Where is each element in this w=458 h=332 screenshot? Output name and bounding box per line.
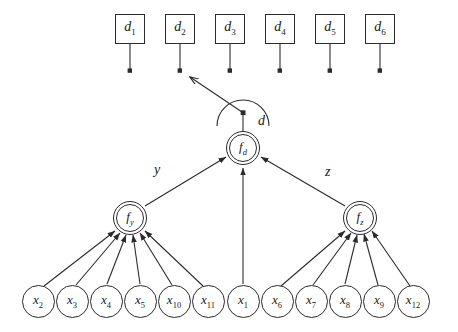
variable-box-d4[interactable]: d4 [265,14,295,44]
variable-node-x2-label: x2 [33,293,43,309]
function-node-f-d[interactable]: fd [226,131,260,165]
variable-node-x7[interactable]: x7 [295,285,328,318]
edge-fz-fd [261,157,345,206]
variable-node-x12-label: x12 [406,293,420,309]
outgoing-message-arrow [190,77,242,112]
edge-label-d: d [258,114,265,128]
diagram-canvas: d1 d2 d3 d4 d5 d6 y d z fy fd fz x2 x3 [0,0,458,332]
function-node-f-z-ring: fz [346,204,374,232]
variable-node-x8[interactable]: x8 [329,285,362,318]
variable-node-x8-label: x8 [340,293,350,309]
variable-node-x6-label: x6 [272,293,282,309]
dbox-stems [130,44,380,70]
variable-node-x1[interactable]: x1 [227,285,260,318]
dbox-terminal-dots [128,68,382,72]
variable-node-x3[interactable]: x3 [56,285,89,318]
variable-box-d2[interactable]: d2 [165,14,195,44]
diagram-wires [0,0,458,332]
variable-box-d3-label: d3 [224,20,236,37]
edge-label-y: y [154,163,160,177]
variable-node-x11-label: x11 [201,293,215,309]
variable-node-x9-label: x9 [374,293,384,309]
function-node-f-y-label: fy [126,210,133,226]
variable-node-x10-label: x10 [167,293,181,309]
variable-box-d6-label: d6 [374,20,386,37]
variable-box-d3[interactable]: d3 [215,14,245,44]
function-node-f-y-ring: fy [116,204,144,232]
variable-node-x1-label: x1 [238,293,248,309]
variable-node-x4-label: x4 [101,293,111,309]
variable-node-x12[interactable]: x12 [397,285,430,318]
variable-node-x5[interactable]: x5 [124,285,157,318]
variable-node-x7-label: x7 [306,293,316,309]
variable-node-x5-label: x5 [135,293,145,309]
function-node-f-y[interactable]: fy [113,201,147,235]
variable-box-d5-label: d5 [324,20,336,37]
variable-node-x10[interactable]: x10 [158,285,191,318]
variable-node-x11[interactable]: x11 [192,285,225,318]
variable-box-d1[interactable]: d1 [115,14,145,44]
function-node-f-z[interactable]: fz [343,201,377,235]
variable-node-x2[interactable]: x2 [22,285,55,318]
variable-box-d2-label: d2 [174,20,186,37]
variable-box-d4-label: d4 [274,20,286,37]
variable-node-x3-label: x3 [67,293,77,309]
edges-to-fy [44,231,203,286]
variable-box-d6[interactable]: d6 [365,14,395,44]
variable-box-d1-label: d1 [124,20,136,37]
edges-to-fz [281,231,410,286]
function-node-f-d-label: fd [239,140,247,156]
variable-node-x9[interactable]: x9 [363,285,396,318]
variable-box-d5[interactable]: d5 [315,14,345,44]
edge-label-z: z [325,165,330,179]
variable-node-x4[interactable]: x4 [90,285,123,318]
variable-node-x6[interactable]: x6 [261,285,294,318]
function-node-f-z-label: fz [357,210,364,226]
function-node-f-d-ring: fd [229,134,257,162]
